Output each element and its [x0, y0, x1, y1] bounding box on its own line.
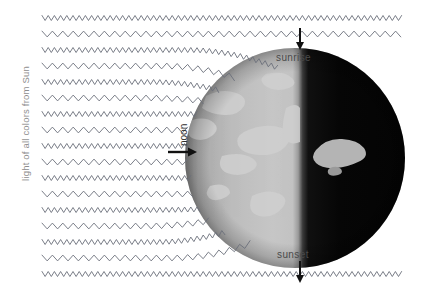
light-source-label: light of all colors from Sun	[20, 59, 31, 189]
diagram-canvas: light of all colors from Sun noon sunris…	[0, 0, 432, 299]
sunset-label: sunset	[277, 249, 309, 260]
noon-arrow	[168, 148, 197, 157]
sunrise-label: sunrise	[276, 52, 311, 63]
markers-layer	[0, 0, 432, 299]
noon-label: noon	[178, 106, 189, 146]
sunset-arrow	[296, 261, 304, 283]
sunrise-arrow	[296, 28, 304, 50]
